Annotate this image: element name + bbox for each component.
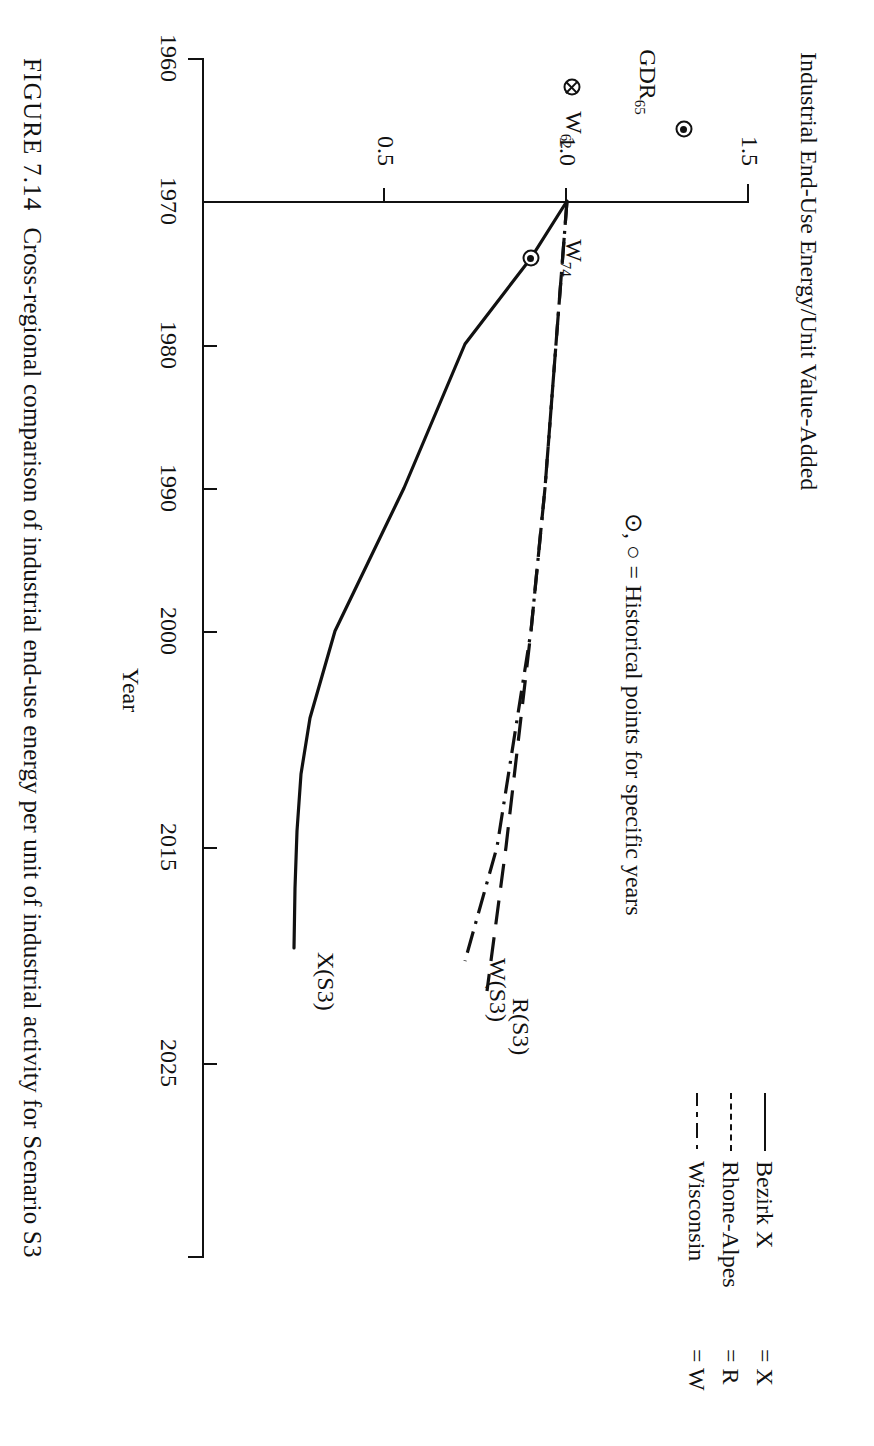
figure-number: FIGURE 7.14 xyxy=(19,58,46,211)
point-label-gdr65-sub: 65 xyxy=(632,100,648,115)
legend-item-wisconsin: Wisconsin = W xyxy=(680,1093,714,1391)
legend-label-wisconsin: Wisconsin xyxy=(680,1161,714,1349)
point-marker-gdr65 xyxy=(676,121,693,138)
point-label-gdr65: GDR65 xyxy=(631,49,662,115)
historical-points-note: ⊙, ○ = Historical points for specific ye… xyxy=(620,513,648,916)
curve-wisconsin xyxy=(465,201,567,961)
figure-page: 1960 1970 1980 1990 2000 2015 2025 1.5 1… xyxy=(0,0,874,1446)
legend-label-bezirk-x: Bezirk X xyxy=(748,1161,782,1349)
figure-caption: FIGURE 7.14Cross-regional comparison of … xyxy=(18,0,46,1446)
curve-label-bezirk-x: X(S3) xyxy=(312,952,339,1011)
point-marker-w62 xyxy=(564,79,581,96)
point-label-w62: W62 xyxy=(557,111,588,149)
curve-rhone-alpes xyxy=(487,201,567,991)
legend-eq-wisconsin: = W xyxy=(680,1349,714,1391)
curve-label-rhone-alpes: R(S3) xyxy=(507,998,534,1055)
plot-area: 1960 1970 1980 1990 2000 2015 2025 1.5 1… xyxy=(74,58,844,1398)
legend-eq-bezirk-x: = X xyxy=(748,1349,782,1386)
point-label-w74-main: W xyxy=(561,239,587,262)
point-label-w62-main: W xyxy=(561,111,587,134)
point-label-w62-sub: 62 xyxy=(558,134,574,149)
point-label-w74: W74 xyxy=(557,239,588,277)
figure-caption-text: Cross-regional comparison of industrial … xyxy=(19,227,46,1257)
legend-label-rhone-alpes: Rhone-Alpes xyxy=(714,1161,748,1349)
legend-eq-rhone-alpes: = R xyxy=(714,1349,748,1385)
curve-bezirk-x xyxy=(294,201,567,948)
legend-item-bezirk-x: Bezirk X = X xyxy=(748,1093,782,1391)
legend: Bezirk X = X Rhone-Alpes = R Wisconsin =… xyxy=(680,1093,782,1391)
legend-item-rhone-alpes: Rhone-Alpes = R xyxy=(714,1093,748,1391)
point-label-w74-sub: 74 xyxy=(558,262,574,277)
point-marker-w74 xyxy=(523,250,540,267)
point-label-gdr65-main: GDR xyxy=(635,49,661,100)
